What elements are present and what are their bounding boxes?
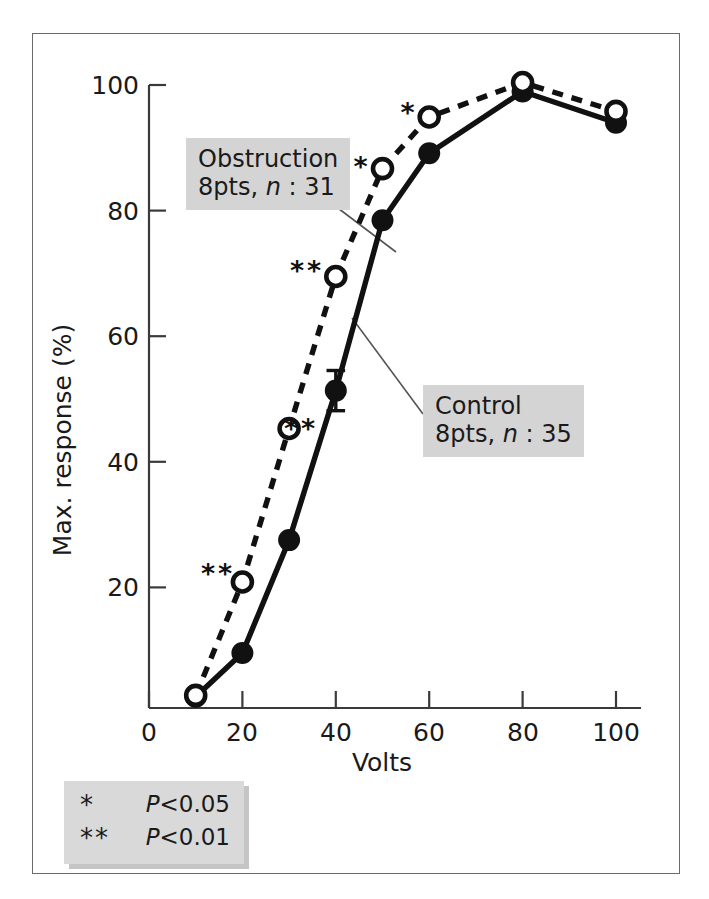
callout-control-n-symbol: n — [503, 420, 518, 448]
legend-p-symbol-2: P — [146, 824, 160, 850]
callout-obstruction-detail: 8pts, n : 31 — [198, 173, 338, 201]
y-tick-label-40: 40 — [107, 448, 139, 477]
y-tick-label-80: 80 — [107, 197, 139, 226]
x-tick-label-0: 0 — [141, 718, 157, 747]
significance-marker-50v: * — [353, 153, 370, 180]
callout-control-title: Control — [435, 392, 572, 420]
y-tick-label-100: 100 — [91, 71, 139, 100]
significance-legend: * P<0.05 ** P<0.01 — [64, 781, 244, 864]
y-axis-title: Max. response (%) — [48, 324, 77, 556]
legend-row-p005: * P<0.05 — [80, 789, 230, 822]
callout-obstruction: Obstruction 8pts, n : 31 — [186, 138, 350, 210]
callout-obstruction-pts: 8pts, — [198, 173, 266, 201]
significance-marker-40v: ** — [290, 257, 324, 284]
legend-pvalue-005: P<0.05 — [140, 789, 230, 822]
x-tick-label-60: 60 — [413, 718, 445, 747]
callout-control: Control 8pts, n : 35 — [423, 385, 584, 457]
legend-row-p001: ** P<0.01 — [80, 822, 230, 855]
callout-control-n-value: : 35 — [518, 420, 572, 448]
x-tick-label-20: 20 — [226, 718, 258, 747]
legend-p-rest-1: <0.05 — [160, 791, 230, 817]
significance-marker-60v: * — [400, 99, 417, 126]
y-tick-label-60: 60 — [107, 322, 139, 351]
x-axis-title: Volts — [352, 748, 412, 777]
legend-p-symbol-1: P — [146, 791, 160, 817]
leader-line-control — [352, 318, 423, 414]
significance-marker-30v: ** — [284, 415, 318, 442]
x-tick-label-40: 40 — [320, 718, 352, 747]
x-tick-label-80: 80 — [507, 718, 539, 747]
y-axis-ticks — [149, 85, 166, 587]
callout-obstruction-n-symbol: n — [266, 173, 281, 201]
legend-p-rest-2: <0.01 — [160, 824, 230, 850]
x-tick-label-100: 100 — [592, 718, 640, 747]
callout-obstruction-title: Obstruction — [198, 145, 338, 173]
callout-control-pts: 8pts, — [435, 420, 503, 448]
callout-obstruction-n-value: : 31 — [281, 173, 335, 201]
significance-marker-20v: ** — [201, 560, 235, 587]
legend-stars-single: * — [80, 789, 140, 822]
callout-control-detail: 8pts, n : 35 — [435, 420, 572, 448]
y-tick-label-20: 20 — [107, 573, 139, 602]
legend-stars-double: ** — [80, 822, 140, 855]
figure-container: 100 80 60 40 20 0 20 40 60 80 100 Max. r… — [0, 0, 709, 899]
legend-pvalue-001: P<0.01 — [140, 822, 230, 855]
x-axis-ticks — [149, 691, 616, 708]
